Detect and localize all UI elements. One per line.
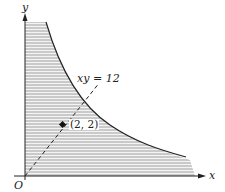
hyperbola-diagram — [0, 0, 225, 192]
origin-label: O — [14, 180, 23, 191]
x-axis-label: x — [209, 170, 215, 181]
curve-label: xy = 12 — [76, 73, 121, 84]
point-label: (2, 2) — [69, 119, 99, 130]
y-axis-label: y — [22, 2, 28, 13]
y-axis-arrow-icon — [23, 13, 28, 21]
x-axis-arrow-icon — [198, 174, 206, 179]
